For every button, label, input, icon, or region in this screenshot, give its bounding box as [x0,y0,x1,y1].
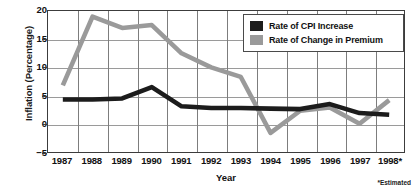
x-tick-label: 1994 [256,155,286,169]
legend-label: Rate of CPI Increase [269,21,353,31]
x-tick-label: 1987 [47,155,77,169]
chart-legend: Rate of CPI IncreaseRate of Change in Pr… [243,14,404,52]
footnote-estimated: *Estimated [377,179,411,186]
x-tick-label: 1995 [286,155,316,169]
x-tick-label: 1997 [345,155,375,169]
legend-swatch-icon [250,35,263,45]
y-tick-mark [42,153,47,154]
y-tick-label: 20 [9,5,47,14]
x-tick-label: 1998* [375,155,405,169]
x-tick-label: 1992 [196,155,226,169]
x-tick-label: 1989 [107,155,137,169]
x-axis-title: Year [47,172,405,183]
legend-label: Rate of Change in Premium [269,35,383,45]
inflation-line-chart: Inflation (Percentage) 20151050−5 198719… [0,0,415,196]
x-tick-label: 1993 [226,155,256,169]
legend-item: Rate of Change in Premium [250,33,398,47]
legend-item: Rate of CPI Increase [250,19,398,33]
y-axis-ticks: 20151050−5 [0,10,47,153]
x-tick-label: 1996 [315,155,345,169]
legend-swatch-icon [250,21,263,31]
x-tick-label: 1988 [77,155,107,169]
x-axis-tick-labels: 1987198819891990199119921993199419951996… [47,155,405,169]
x-tick-label: 1990 [136,155,166,169]
x-tick-label: 1991 [166,155,196,169]
